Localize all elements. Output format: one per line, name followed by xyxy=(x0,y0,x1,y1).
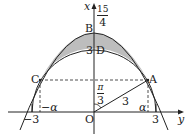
B-value-denominator: 4 xyxy=(99,17,106,28)
horizontal-axis-label: y xyxy=(178,114,184,125)
point-D-label: D xyxy=(96,45,105,56)
angle-fraction: π 3 xyxy=(97,83,104,106)
tick-pos-3-label: 3 xyxy=(152,114,159,125)
D-value-label: 3 xyxy=(86,45,93,56)
tick-neg-3-label: −3 xyxy=(23,114,39,125)
alpha-label: α xyxy=(139,102,146,113)
point-B-label: B xyxy=(85,23,93,34)
vertical-axis-label: x xyxy=(84,1,90,12)
point-C-label: C xyxy=(31,74,39,85)
B-value-numerator: 15 xyxy=(97,5,108,14)
radius-label: 3 xyxy=(122,96,129,107)
B-value-fraction: 15 4 xyxy=(97,5,108,28)
angle-numerator: π xyxy=(98,83,104,92)
angle-denominator: 3 xyxy=(97,95,104,106)
origin-label: O xyxy=(85,114,94,125)
vertical-axis-arrow-icon xyxy=(92,3,97,9)
point-A-label: A xyxy=(149,74,157,85)
neg-alpha-label: −α xyxy=(41,102,58,113)
